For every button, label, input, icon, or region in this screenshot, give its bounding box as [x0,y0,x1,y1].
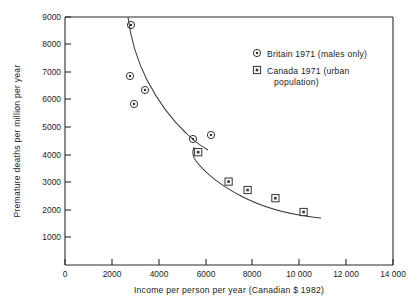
britain-point [141,86,148,93]
circle-dot-icon [253,49,260,56]
legend-entry-canada: Canada 1971 (urban population) [253,66,349,88]
canada-series-markers [195,149,308,216]
x-tick-label-2000: 2000 [103,269,122,279]
chart-figure: 9000 8000 7000 6000 5000 4000 3000 2000 … [0,0,416,303]
legend-label-britain: Britain 1971 (males only) [267,49,367,59]
x-axis-ticks [65,259,393,265]
scatter-plot-svg: 9000 8000 7000 6000 5000 4000 3000 2000 … [0,0,416,303]
legend-entry-britain: Britain 1971 (males only) [253,49,367,59]
britain-fit-curve [128,17,208,150]
x-tick-label-14000: 14 000 [380,269,406,279]
y-tick-label-8000: 8000 [42,39,61,49]
y-tick-label-9000: 9000 [42,12,61,22]
canada-point [225,178,232,185]
y-tick-label-2000: 2000 [42,205,61,215]
y-axis-tick-labels: 9000 8000 7000 6000 5000 4000 3000 2000 … [42,12,61,242]
canada-point [300,208,307,215]
x-axis-tick-labels: 0 2000 4000 6000 8000 10 000 12 000 14 0… [63,269,406,279]
y-tick-label-7000: 7000 [42,67,61,77]
x-axis-title: Income per person per year (Canadian $ 1… [134,285,324,295]
britain-series-markers [126,21,214,142]
y-tick-label-4000: 4000 [42,150,61,160]
canada-point [195,149,202,156]
y-tick-label-1000: 1000 [42,232,61,242]
x-tick-label-10000: 10 000 [286,269,312,279]
britain-point [126,72,133,79]
y-axis-title: Premature deaths per million per year [12,64,22,217]
canada-fit-curve [193,147,321,218]
y-tick-label-3000: 3000 [42,177,61,187]
x-tick-label-12000: 12 000 [333,269,359,279]
britain-point [207,131,214,138]
canada-point [244,186,251,193]
chart-legend: Britain 1971 (males only) Canada 1971 (u… [253,49,367,88]
x-tick-label-6000: 6000 [197,269,216,279]
britain-point [189,135,196,142]
x-tick-label-4000: 4000 [150,269,169,279]
x-tick-label-0: 0 [63,269,68,279]
canada-point [272,195,279,202]
britain-point [127,21,134,28]
square-dot-icon [253,66,260,73]
x-tick-label-8000: 8000 [243,269,262,279]
legend-label-canada-line2: population) [274,77,319,87]
legend-label-canada-line1: Canada 1971 (urban [267,66,349,76]
y-axis-ticks [65,17,71,237]
y-tick-label-5000: 5000 [42,122,61,132]
britain-point [130,100,137,107]
y-tick-label-6000: 6000 [42,94,61,104]
